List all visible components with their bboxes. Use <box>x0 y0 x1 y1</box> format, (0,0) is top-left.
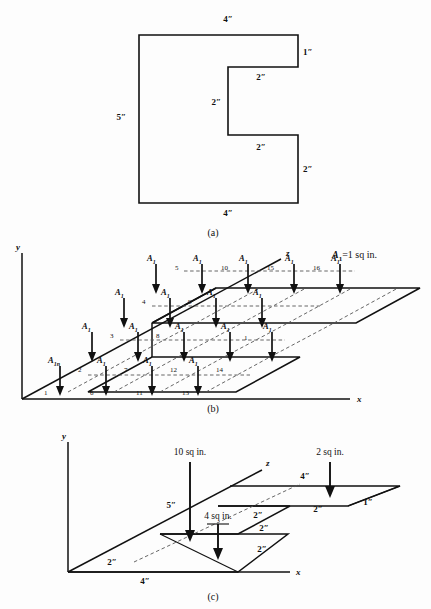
dim-left-height: 5″ <box>117 112 127 122</box>
c-dim-mid-2a: 2″ <box>253 510 263 520</box>
b-upper-plate <box>152 288 420 323</box>
c-plate-2-edge <box>348 486 400 506</box>
svg-text:A1: A1 <box>146 253 156 265</box>
c-plate-10-inner <box>160 534 238 572</box>
panel-label-b: (b) <box>207 403 219 415</box>
panel-label-c: (c) <box>207 591 218 603</box>
c-dim-top-4: 4″ <box>300 471 310 481</box>
dim-notch-height: 2″ <box>212 97 222 107</box>
b-elem-4: 4 <box>142 298 146 306</box>
c-dim-mid-2b: 2″ <box>259 523 269 533</box>
c-dim-height-5: 5″ <box>167 500 177 510</box>
b-elem-5: 5 <box>175 264 179 272</box>
svg-text:A1: A1 <box>128 321 138 333</box>
svg-text:A1: A1 <box>284 253 294 265</box>
b-elem-14: 14 <box>216 366 224 374</box>
c-dim-upper-2a: 2″ <box>313 504 323 514</box>
dim-bottom-width: 4″ <box>223 208 233 218</box>
dim-right-bot-height: 2″ <box>303 164 313 174</box>
b-elem-9: 9 <box>188 298 192 306</box>
c-load-4-label: 4 sq in. <box>204 511 232 521</box>
b-elem-16: 16 <box>313 264 321 272</box>
c-dim-right-1: 1″ <box>363 497 373 507</box>
b-elem-11: 11 <box>136 389 143 397</box>
b-elem-15: 15 <box>267 264 275 272</box>
b-force-arrows <box>56 264 344 396</box>
b-elem-2: 2 <box>78 366 82 374</box>
panel-c: y x z 10 sq in. 4 sq in. 2 sq in. 5″ 4″ <box>61 431 400 603</box>
b-elem-8: 8 <box>156 332 160 340</box>
c-dim-base-2: 2″ <box>107 557 117 567</box>
dim-lower-notch-width: 2″ <box>256 142 266 152</box>
b-force-labels: A1n A1 A1 A1 A1 A1 A1 A1 A1 A1 A1 A1 A1 … <box>47 253 340 367</box>
svg-text:A1: A1 <box>114 287 124 299</box>
b-elem-step-1: 1 <box>244 334 248 342</box>
panel-b: y x z A1=1 sq in. <box>15 242 420 415</box>
c-plate-10 <box>68 534 288 572</box>
e-shaped-cross-section <box>139 35 298 203</box>
b-elem-13: 13 <box>182 389 190 397</box>
b-elem-3: 3 <box>110 332 114 340</box>
b-legend-rest: =1 sq in. <box>342 249 377 260</box>
panel-label-a: (a) <box>207 227 218 239</box>
panel-a: 4″ 1″ 2″ 2″ 2″ 2″ 5″ 4″ (a) <box>117 14 313 239</box>
c-dim-base-4: 4″ <box>140 576 150 586</box>
b-elem-12: 12 <box>170 366 178 374</box>
svg-text:A1: A1 <box>160 287 170 299</box>
svg-text:A1: A1 <box>238 253 248 265</box>
c-load-10-label: 10 sq in. <box>174 447 206 457</box>
dim-upper-notch-width: 2″ <box>256 72 266 82</box>
b-elem-7: 7 <box>124 366 128 374</box>
b-elem-10: 10 <box>221 264 229 272</box>
b-elem-1: 1 <box>44 389 48 397</box>
svg-text:A1: A1 <box>192 253 202 265</box>
b-force-label-first: A1n <box>47 355 61 367</box>
b-elem-6: 6 <box>90 389 94 397</box>
c-y-axis-label: y <box>61 431 67 441</box>
svg-text:A1: A1 <box>96 355 106 367</box>
svg-text:A1: A1 <box>142 355 152 367</box>
b-y-axis-label: y <box>15 242 21 252</box>
b-x-axis-label: x <box>356 394 362 404</box>
textbook-figure: 4″ 1″ 2″ 2″ 2″ 2″ 5″ 4″ (a) y x z A1=1 s… <box>0 0 431 609</box>
dim-right-top-height: 1″ <box>303 47 313 57</box>
c-load-2-label: 2 sq in. <box>316 447 344 457</box>
dim-top-width: 4″ <box>223 14 233 24</box>
c-z-axis-label: z <box>265 458 270 468</box>
c-dim-low-2: 2″ <box>257 544 267 554</box>
c-x-axis-label: x <box>295 567 301 577</box>
svg-text:A1: A1 <box>81 321 91 333</box>
